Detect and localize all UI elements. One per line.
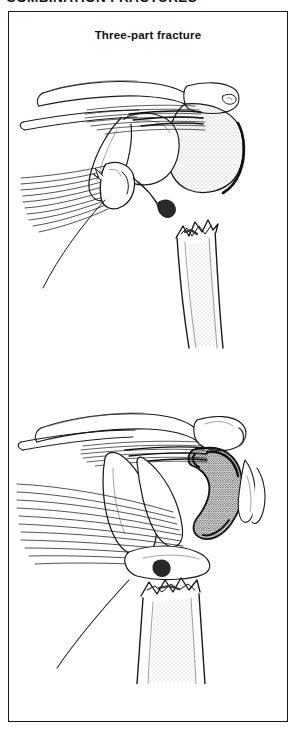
figure-page: COMBINATION FRACTURES Three-part fractur… xyxy=(0,0,298,736)
running-header: COMBINATION FRACTURES xyxy=(6,0,292,5)
illustration-lower-panel xyxy=(9,384,287,684)
illustration-upper-panel xyxy=(9,60,287,350)
figure-title: Three-part fracture xyxy=(9,29,287,41)
running-header-text: COMBINATION FRACTURES xyxy=(6,0,292,5)
figure-frame: Three-part fracture xyxy=(8,11,288,722)
